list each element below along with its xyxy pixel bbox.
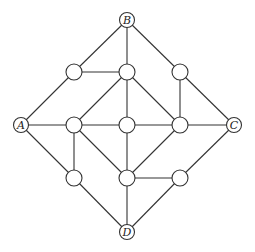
node-n8 — [119, 170, 135, 186]
node-D: D — [120, 225, 135, 240]
node-n1 — [66, 64, 82, 80]
node-n7 — [66, 170, 82, 186]
node-circle — [119, 170, 135, 186]
edge-A-n7 — [21, 125, 74, 178]
node-circle — [66, 64, 82, 80]
node-circle — [66, 117, 82, 133]
edge-B-n1 — [74, 20, 127, 72]
node-label: C — [230, 119, 239, 132]
edge-n2-n6 — [127, 72, 180, 125]
node-A: A — [14, 118, 29, 133]
node-n3 — [172, 64, 188, 80]
edge-n2-n4 — [74, 72, 127, 125]
node-circle — [172, 117, 188, 133]
node-circle — [119, 117, 135, 133]
graph-diagram: BACD — [0, 0, 255, 252]
node-circle — [66, 170, 82, 186]
edge-n3-C — [180, 72, 234, 125]
node-B: B — [120, 13, 135, 28]
node-n2 — [119, 64, 135, 80]
node-n5 — [119, 117, 135, 133]
node-circle — [119, 64, 135, 80]
edge-n4-n8 — [74, 125, 127, 178]
node-n4 — [66, 117, 82, 133]
edge-C-n9 — [180, 125, 234, 178]
edge-n1-A — [21, 72, 74, 125]
node-circle — [172, 64, 188, 80]
edge-n7-D — [74, 178, 127, 232]
node-n6 — [172, 117, 188, 133]
edge-n6-n8 — [127, 125, 180, 178]
node-C: C — [227, 118, 242, 133]
node-circle — [172, 170, 188, 186]
node-label: A — [16, 119, 25, 132]
node-label: D — [122, 226, 132, 239]
node-n9 — [172, 170, 188, 186]
edge-B-n3 — [127, 20, 180, 72]
node-label: B — [122, 14, 131, 27]
edge-n9-D — [127, 178, 180, 232]
